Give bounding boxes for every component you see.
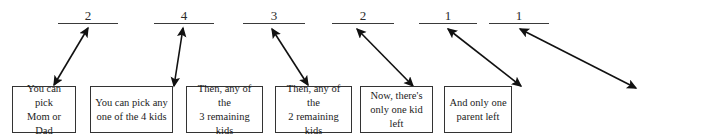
slot-underline (154, 23, 214, 24)
answer-slot: 4 (154, 8, 214, 24)
explanation-box: Then, any of the 2 remaining kids (275, 86, 352, 133)
slot-value: 4 (154, 9, 214, 22)
connector-arrow (54, 28, 88, 85)
explanation-text: Then, any of the 3 remaining kids (191, 82, 258, 138)
slot-value: 2 (332, 9, 394, 22)
slot-underline (419, 23, 477, 24)
slot-underline (243, 23, 305, 24)
explanation-text: You can pick Mom or Dad (17, 82, 71, 138)
answer-slot: 1 (489, 8, 549, 24)
answer-slot: 1 (419, 8, 477, 24)
connector-arrow (272, 29, 308, 85)
answer-slot: 2 (332, 8, 394, 24)
slot-underline (58, 23, 118, 24)
diagram-canvas: 243211 You can pick Mom or DadYou can pi… (0, 0, 710, 139)
connector-arrow (448, 29, 521, 86)
connector-arrow (357, 29, 413, 86)
explanation-box: You can pick Mom or Dad (12, 86, 76, 133)
connector-arrow (174, 28, 183, 86)
explanation-box: You can pick any one of the 4 kids (90, 86, 173, 133)
slot-value: 2 (58, 9, 118, 22)
explanation-text: Now, there's only one kid left (365, 89, 428, 131)
explanation-text: Then, any of the 2 remaining kids (280, 82, 347, 138)
explanation-text: And only one parent left (449, 96, 506, 124)
explanation-box: Now, there's only one kid left (360, 86, 433, 133)
explanation-box: And only one parent left (444, 86, 512, 133)
explanation-box: Then, any of the 3 remaining kids (186, 86, 263, 133)
slot-underline (489, 23, 549, 24)
slot-value: 3 (243, 9, 305, 22)
slot-value: 1 (419, 9, 477, 22)
slot-underline (332, 23, 394, 24)
slot-value: 1 (489, 9, 549, 22)
answer-slot: 2 (58, 8, 118, 24)
explanation-text: You can pick any one of the 4 kids (95, 96, 168, 124)
answer-slot: 3 (243, 8, 305, 24)
connector-arrow (520, 29, 636, 88)
